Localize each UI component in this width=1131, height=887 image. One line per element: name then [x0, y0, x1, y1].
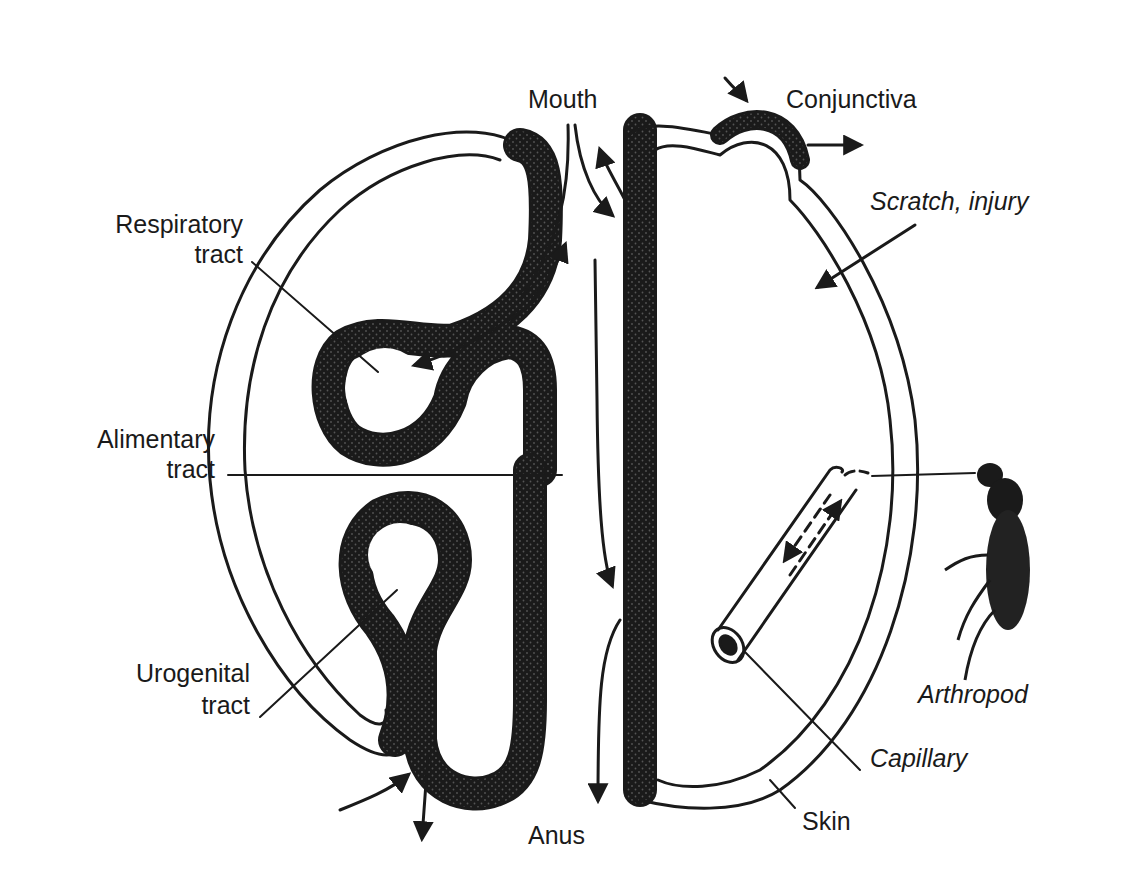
- anus-label: Anus: [528, 820, 585, 850]
- capillary: [706, 467, 975, 770]
- capillary-label: Capillary: [870, 743, 967, 773]
- urogenital-label-line2: tract: [85, 690, 250, 720]
- scratch-injury-label: Scratch, injury: [870, 186, 1028, 216]
- conjunctiva-label: Conjunctiva: [786, 84, 917, 114]
- urogenital-label-line1: Urogenital: [85, 658, 250, 688]
- right-body-outline: [625, 121, 918, 808]
- respiratory-label-line2: tract: [78, 239, 243, 269]
- arthropod-illustration: [945, 463, 1030, 680]
- conjunctiva-in-arrow: [725, 78, 746, 100]
- urogenital-tract: [356, 470, 530, 793]
- mouth-label: Mouth: [528, 84, 597, 114]
- respiratory-label-line1: Respiratory: [78, 209, 243, 239]
- arthropod-label: Arthropod: [918, 679, 1028, 709]
- alimentary-label-line1: Alimentary: [50, 424, 215, 454]
- urogenital-leader: [260, 590, 397, 717]
- respiratory-leader: [252, 262, 378, 372]
- urogenital-in-arrow: [340, 775, 408, 810]
- alimentary-label-line2: tract: [50, 454, 215, 484]
- skin-label: Skin: [802, 806, 851, 836]
